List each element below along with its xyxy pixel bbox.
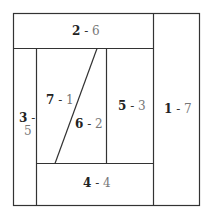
region-label-7-1: 7 - 1 (46, 93, 74, 107)
region-label-1-7: 1 - 7 (164, 102, 192, 116)
region-label-4-4: 4 - 4 (83, 176, 111, 190)
region-label-2-6: 2 - 6 (72, 24, 100, 38)
region-label-5-3: 5 - 3 (118, 99, 146, 113)
region-label-3-5: 3 -5 (19, 112, 35, 138)
region-label-6-2: 6 - 2 (75, 117, 103, 131)
